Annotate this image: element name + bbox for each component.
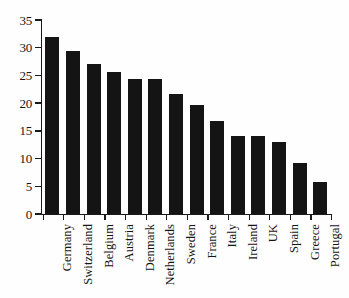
x-axis-category-label: Ireland: [243, 224, 256, 260]
bar-chart: 05101520253035 GermanySwitzerlandBelgium…: [0, 0, 349, 298]
y-axis-tick: [35, 19, 42, 20]
bar: [210, 121, 224, 214]
x-axis-category-label-text: Netherlands: [164, 224, 177, 286]
x-axis-tick: [104, 214, 105, 220]
y-axis-tick: [35, 213, 42, 214]
bar: [66, 51, 80, 215]
x-axis-category-label: Greece: [305, 224, 318, 260]
x-axis-category-label: Portugal: [325, 224, 338, 267]
x-axis-tick: [84, 214, 85, 220]
x-axis-category-label: France: [202, 224, 215, 259]
y-axis-tick-label: 5: [26, 180, 32, 193]
x-axis-category-label: Germany: [57, 224, 70, 271]
x-axis-category-label: Netherlands: [160, 224, 173, 286]
y-axis-tick-label: 20: [19, 97, 32, 110]
y-axis-tick-label: 15: [19, 124, 32, 137]
x-axis-tick: [228, 214, 229, 220]
bar: [231, 136, 245, 214]
x-axis-category-label-text: Denmark: [144, 224, 157, 271]
y-axis-tick: [35, 130, 42, 131]
y-axis-tick: [35, 102, 42, 103]
bar: [148, 79, 162, 214]
bars-layer: [42, 20, 330, 214]
bar: [190, 105, 204, 214]
y-axis-tick-label: 35: [19, 14, 32, 27]
x-axis-tick: [187, 214, 188, 220]
y-axis-tick: [35, 47, 42, 48]
x-axis-tick: [166, 214, 167, 220]
y-axis-tick: [35, 186, 42, 187]
x-axis-category-label-text: Greece: [309, 224, 322, 260]
x-axis-tick: [63, 214, 64, 220]
x-axis-category-label: Denmark: [140, 224, 153, 271]
y-axis-tick: [35, 75, 42, 76]
y-axis-tick-label: 0: [26, 208, 32, 221]
x-axis-category-label-text: Portugal: [329, 224, 342, 267]
x-axis-category-label-text: France: [206, 224, 219, 259]
x-axis-category-label-text: UK: [267, 224, 280, 242]
x-axis-category-label-text: Switzerland: [82, 224, 95, 285]
bar: [313, 182, 327, 214]
y-axis-tick-label: 30: [19, 41, 32, 54]
x-axis-category-label-text: Italy: [226, 224, 239, 247]
x-axis-tick: [249, 214, 250, 220]
x-axis-category-label-text: Germany: [61, 224, 74, 271]
bar: [272, 142, 286, 214]
x-axis-category-label: Italy: [222, 224, 235, 247]
bar: [107, 72, 121, 214]
x-axis-category-label-text: Belgium: [103, 224, 116, 268]
x-axis-category-label: Sweden: [181, 224, 194, 264]
y-axis-tick-label: 10: [19, 152, 32, 165]
x-axis-tick: [290, 214, 291, 220]
bar: [87, 64, 101, 214]
y-axis-tick-label: 25: [19, 69, 32, 82]
x-axis-category-label-text: Austria: [123, 224, 136, 262]
bar: [128, 79, 142, 214]
bar: [293, 163, 307, 214]
x-axis-category-label-text: Ireland: [247, 224, 260, 260]
bar: [45, 37, 59, 214]
x-axis-tick: [331, 214, 332, 220]
x-axis-tick: [269, 214, 270, 220]
y-axis-tick: [35, 158, 42, 159]
x-axis-category-label-text: Sweden: [185, 224, 198, 264]
x-axis-category-label-text: Spain: [288, 224, 301, 253]
x-axis-tick: [43, 214, 44, 220]
x-axis-tick: [125, 214, 126, 220]
x-axis-category-label: Austria: [119, 224, 132, 262]
x-axis-tick: [146, 214, 147, 220]
x-axis-category-label: Belgium: [99, 224, 112, 268]
bar: [169, 94, 183, 214]
bar: [251, 136, 265, 214]
x-axis-category-label: UK: [263, 224, 276, 242]
x-axis-tick: [207, 214, 208, 220]
x-axis-category-label: Switzerland: [78, 224, 91, 285]
x-axis-tick: [310, 214, 311, 220]
x-axis-category-label: Spain: [284, 224, 297, 253]
